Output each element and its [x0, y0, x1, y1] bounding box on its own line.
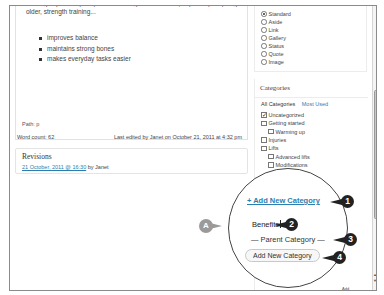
radio-icon[interactable] — [261, 19, 267, 25]
categories-tabs: All Categories Most Used — [261, 101, 333, 107]
word-count: Word count: 62 — [17, 134, 54, 140]
format-option-gallery[interactable]: Gallery — [261, 34, 291, 42]
radio-icon[interactable] — [261, 35, 267, 41]
revisions-panel: Revisions 21 October, 2011 @ 16:30 by Ja… — [15, 148, 248, 174]
add-new-category-button[interactable]: Add New Category — [245, 249, 320, 262]
tab-all-categories[interactable]: All Categories — [261, 101, 295, 107]
post-content-editor[interactable]: training improves quality of life. Among… — [15, 5, 248, 140]
content-paragraph: older, strength training... — [26, 8, 96, 15]
checkbox-icon[interactable] — [261, 146, 267, 152]
scroll-down-arrow-icon[interactable]: ▼ — [373, 278, 377, 283]
scrollbar-thumb[interactable] — [374, 90, 378, 219]
bullet-item: maintains strong bones — [38, 44, 131, 55]
parent-category-select[interactable]: — Parent Category — — [251, 235, 325, 244]
revision-entry: 21 October, 2011 @ 16:30 by Janet — [22, 164, 109, 170]
checkbox-icon[interactable] — [268, 129, 274, 135]
editor-status-bar: Word count: 62 Last edited by Janet on O… — [15, 133, 248, 142]
editor-path: Path: p — [22, 121, 39, 127]
category-checklist: Uncategorized Getting started Warming up… — [261, 111, 310, 169]
revision-author: by Janet — [86, 164, 108, 170]
content-bullet-list: improves balance maintains strong bones … — [38, 33, 131, 65]
format-option-aside[interactable]: Aside — [261, 18, 291, 26]
revision-link[interactable]: 21 October, 2011 @ 16:30 — [22, 164, 86, 170]
callout-badge-4: 4 — [333, 251, 346, 264]
bullet-item: makes everyday tasks easier — [38, 54, 131, 65]
checkbox-icon[interactable] — [261, 121, 267, 127]
callout-badge-2: 2 — [285, 218, 298, 231]
category-lifts[interactable]: Lifts — [261, 144, 310, 152]
format-option-status[interactable]: Status — [261, 42, 291, 50]
bullet-item: improves balance — [38, 33, 131, 44]
category-injuries[interactable]: Injuries — [261, 136, 310, 144]
sidebar-scrollbar[interactable]: ▲ ▼ — [372, 6, 377, 290]
format-radio-list: Standard Aside Link Gallery Status Quote… — [261, 10, 291, 66]
last-edited: Last edited by Janet on October 21, 2011… — [114, 134, 242, 140]
category-advanced-lifts[interactable]: Advanced lifts — [261, 152, 310, 160]
callout-badge-3: 3 — [344, 233, 357, 246]
radio-icon[interactable] — [261, 43, 267, 49]
add-button-partial[interactable]: Add — [342, 286, 349, 291]
radio-selected-icon[interactable] — [261, 11, 267, 17]
format-option-link[interactable]: Link — [261, 26, 291, 34]
add-new-category-link[interactable]: + Add New Category — [247, 196, 320, 205]
scroll-up-arrow-icon[interactable]: ▲ — [373, 272, 377, 277]
category-warming-up[interactable]: Warming up — [261, 128, 310, 136]
checkbox-icon[interactable] — [261, 137, 267, 143]
divider — [255, 97, 368, 98]
category-uncategorized[interactable]: Uncategorized — [261, 111, 310, 119]
checkbox-icon[interactable] — [268, 154, 274, 160]
format-option-standard[interactable]: Standard — [261, 10, 291, 18]
categories-title: Categories — [260, 84, 290, 92]
radio-icon[interactable] — [261, 27, 267, 33]
format-option-quote[interactable]: Quote — [261, 50, 291, 58]
revisions-title: Revisions — [22, 152, 52, 161]
radio-icon[interactable] — [261, 59, 267, 65]
format-panel: Standard Aside Link Gallery Status Quote… — [254, 5, 367, 72]
callout-badge-a: A — [199, 219, 213, 233]
callout-badge-1: 1 — [341, 195, 354, 208]
checkbox-icon[interactable] — [268, 162, 274, 168]
checkbox-checked-icon[interactable] — [261, 112, 267, 118]
category-getting-started[interactable]: Getting started — [261, 119, 310, 127]
radio-icon[interactable] — [261, 51, 267, 57]
format-option-image[interactable]: Image — [261, 58, 291, 66]
tab-most-used[interactable]: Most Used — [302, 101, 328, 107]
